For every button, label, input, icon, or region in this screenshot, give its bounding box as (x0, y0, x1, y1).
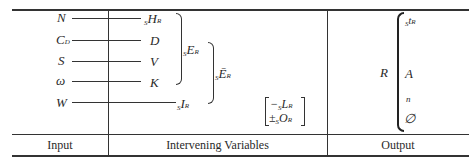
column-header-output: Output (327, 138, 469, 153)
stimulus-intensity: V (150, 55, 158, 69)
inhibition: SIR (177, 97, 189, 115)
drive: D (150, 34, 159, 48)
output-brace (397, 12, 404, 132)
input-var-w: W (56, 96, 67, 110)
brace-net-excitatory (208, 42, 214, 104)
incentive: K (150, 76, 159, 90)
bracket-right (301, 97, 305, 126)
bottom-rule (12, 155, 469, 157)
column-divider-1 (108, 9, 109, 156)
column-header-intervening: Intervening Variables (108, 138, 327, 153)
input-var-s: S (58, 54, 65, 68)
habit-strength: SHR (144, 12, 161, 30)
trials-to-extinction: n (406, 92, 411, 106)
latency: StR (405, 14, 416, 31)
brace-excitatory (176, 13, 182, 85)
column-divider-2 (327, 9, 328, 156)
connector-s (72, 61, 141, 62)
header-rule (12, 134, 469, 135)
connector-omega (72, 81, 141, 82)
response: R (380, 66, 388, 80)
input-var-n: N (57, 11, 66, 25)
amplitude: A (405, 67, 413, 81)
excitatory-potential: SER (183, 43, 199, 61)
connector-n (72, 18, 141, 19)
probability: ∅ (404, 112, 415, 126)
connector-w (72, 102, 176, 103)
input-var-omega: ω (56, 74, 65, 88)
input-var-cd: CD (56, 33, 70, 49)
top-rule (12, 9, 469, 11)
column-header-input: Input (12, 138, 108, 153)
connector-cd (72, 40, 141, 41)
net-excitatory-potential: SĒR (215, 67, 231, 85)
oscillation: ±SOR (269, 111, 292, 129)
